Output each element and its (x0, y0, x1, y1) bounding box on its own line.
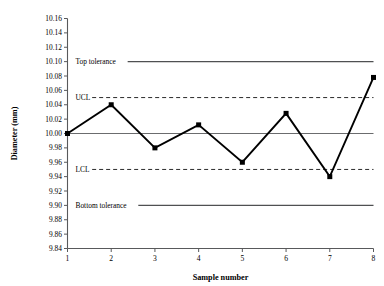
x-tick-label: 3 (153, 254, 157, 263)
y-tick-label: 10.14 (45, 28, 62, 37)
x-tick-label: 7 (328, 254, 332, 263)
data-point-marker (65, 131, 70, 136)
data-point-marker (152, 145, 157, 150)
x-axis-title: Sample number (193, 273, 249, 282)
y-tick-label: 10.02 (45, 115, 62, 124)
data-point-marker (327, 174, 332, 179)
y-tick-label: 9.90 (49, 201, 62, 210)
data-point-marker (371, 75, 376, 80)
y-tick-label: 9.84 (49, 244, 62, 253)
y-tick-label: 9.86 (49, 230, 62, 239)
data-point-marker (196, 122, 201, 127)
y-tick-label: 10.00 (45, 129, 62, 138)
y-tick-label: 9.96 (49, 158, 62, 167)
reference-line-ucl-label: UCL (76, 93, 91, 102)
data-point-marker (240, 160, 245, 165)
y-tick-label: 10.08 (45, 72, 62, 81)
data-point-marker (284, 111, 289, 116)
y-tick-label: 9.92 (49, 187, 62, 196)
x-tick-label: 5 (240, 254, 244, 263)
x-tick-label: 2 (109, 254, 113, 263)
reference-line-lcl-label: LCL (76, 165, 90, 174)
y-tick-label: 10.10 (45, 57, 62, 66)
y-tick-label: 9.98 (49, 143, 62, 152)
y-tick-label: 10.04 (45, 100, 62, 109)
y-tick-label: 10.16 (45, 14, 62, 23)
x-tick-label: 8 (372, 254, 376, 263)
y-axis-title: Diameter (mm) (10, 106, 19, 160)
chart-canvas: 10.1610.1410.1210.1010.0810.0610.0410.02… (0, 0, 384, 286)
x-tick-label: 4 (197, 254, 201, 263)
y-tick-label: 9.88 (49, 215, 62, 224)
y-tick-label: 10.12 (45, 43, 62, 52)
reference-line-top-tolerance-label: Top tolerance (76, 57, 117, 66)
x-tick-label: 1 (66, 254, 70, 263)
reference-line-bottom-tolerance-label: Bottom tolerance (76, 201, 128, 210)
data-series-line (68, 77, 374, 176)
control-chart: 10.1610.1410.1210.1010.0810.0610.0410.02… (0, 0, 384, 286)
y-tick-label: 10.06 (45, 86, 62, 95)
y-tick-label: 9.94 (49, 172, 62, 181)
data-point-marker (109, 102, 114, 107)
x-tick-label: 6 (284, 254, 288, 263)
